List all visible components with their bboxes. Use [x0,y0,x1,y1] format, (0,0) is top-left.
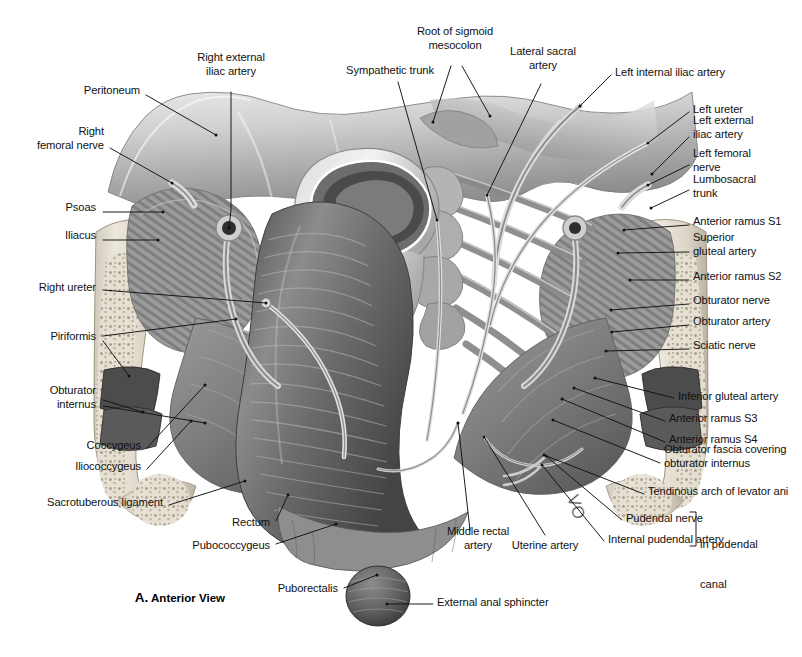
label-right-ureter-line1: Right ureter [0,281,96,294]
label-right-femoral-nerve-line2: femoral nerve [0,139,104,152]
label-layer: PeritoneumRight externaliliac arterySymp… [0,0,802,657]
label-sacrotuberous-ligament-line1: Sacrotuberous ligament [0,496,163,509]
label-inferior-gluteal-artery: Inferior gluteal artery [678,390,802,403]
label-right-femoral-nerve: Rightfemoral nerve [0,125,104,151]
label-left-external-iliac-artery-line2: iliac artery [693,128,802,141]
label-pubococcygeus-line1: Pubococcygeus [0,539,270,552]
label-inferior-gluteal-artery-line1: Inferior gluteal artery [678,390,802,403]
label-iliacus-line1: Iliacus [0,229,96,242]
label-obturator-fascia-line2: obturator internus [664,457,802,470]
figure-caption: A. Anterior View [117,570,225,624]
label-anterior-ramus-s3-line1: Anterior ramus S3 [669,412,802,425]
label-lumbosacral-trunk-line2: trunk [693,187,802,200]
label-superior-gluteal-artery-line1: Superior [693,231,802,244]
label-right-ureter: Right ureter [0,281,96,294]
label-iliococcygeus-line1: Iliococcygeus [0,460,141,473]
label-rectum: Rectum [0,516,270,529]
label-middle-rectal-artery-line1: Middle rectal [368,525,588,538]
label-psoas-line1: Psoas [0,201,96,214]
label-anterior-ramus-s3: Anterior ramus S3 [669,412,802,425]
label-sciatic-nerve: Sciatic nerve [693,339,802,352]
label-anterior-ramus-s1-line1: Anterior ramus S1 [693,215,802,228]
label-obturator-artery: Obturator artery [693,315,802,328]
label-iliacus: Iliacus [0,229,96,242]
label-anterior-ramus-s2-line1: Anterior ramus S2 [693,270,802,283]
label-obturator-artery-line1: Obturator artery [693,315,802,328]
label-peritoneum: Peritoneum [0,84,140,97]
label-piriformis-line1: Piriformis [0,330,96,343]
label-obturator-internus: Obturatorinternus [0,384,96,410]
label-obturator-fascia-line1: Obturator fascia covering [664,443,802,456]
label-obturator-fascia: Obturator fascia coveringobturator inter… [664,443,802,469]
label-superior-gluteal-artery-line2: gluteal artery [693,245,802,258]
label-left-external-iliac-artery-line1: Left external [693,114,802,127]
label-peritoneum-line1: Peritoneum [0,84,140,97]
label-lumbosacral-trunk: Lumbosacraltrunk [693,173,802,199]
label-sciatic-nerve-line1: Sciatic nerve [693,339,802,352]
pudendal-canal-note-line2: canal [700,578,758,591]
label-left-femoral-nerve: Left femoralnerve [693,147,802,173]
label-coccygeus-line1: Coccygeus [0,439,141,452]
label-tendinous-arch-of-levator-ani: Tendinous arch of levator ani [648,485,802,498]
pudendal-canal-note: in pudendal canal [700,512,758,618]
label-rectum-line1: Rectum [0,516,270,529]
label-iliococcygeus: Iliococcygeus [0,460,141,473]
label-uterine-artery-line1: Uterine artery [435,539,655,552]
label-uterine-artery: Uterine artery [435,539,655,552]
label-left-internal-iliac-artery-line1: Left internal iliac artery [615,66,802,79]
label-lateral-sacral-artery-line1: Lateral sacral [433,45,653,58]
label-left-internal-iliac-artery: Left internal iliac artery [615,66,802,79]
label-root-of-sigmoid-mesocolon-line1: Root of sigmoid [345,25,565,38]
label-coccygeus: Coccygeus [0,439,141,452]
label-anterior-ramus-s1: Anterior ramus S1 [693,215,802,228]
label-tendinous-arch-of-levator-ani-line1: Tendinous arch of levator ani [648,485,802,498]
label-obturator-internus-line2: internus [0,398,96,411]
label-left-external-iliac-artery: Left externaliliac artery [693,114,802,140]
label-pubococcygeus: Pubococcygeus [0,539,270,552]
label-sacrotuberous-ligament: Sacrotuberous ligament [0,496,163,509]
label-piriformis: Piriformis [0,330,96,343]
label-lumbosacral-trunk-line1: Lumbosacral [693,173,802,186]
caption-letter: A. [135,590,149,605]
pudendal-canal-note-line1: in pudendal [700,538,758,551]
caption-text: Anterior View [151,592,225,604]
anatomical-figure: VO [0,0,802,657]
label-right-femoral-nerve-line1: Right [0,125,104,138]
label-obturator-internus-line1: Obturator [0,384,96,397]
label-obturator-nerve-line1: Obturator nerve [693,294,802,307]
label-anterior-ramus-s2: Anterior ramus S2 [693,270,802,283]
label-superior-gluteal-artery: Superiorgluteal artery [693,231,802,257]
label-psoas: Psoas [0,201,96,214]
label-left-femoral-nerve-line2: nerve [693,161,802,174]
label-right-external-iliac-artery-line1: Right external [121,51,341,64]
label-left-femoral-nerve-line1: Left femoral [693,147,802,160]
label-obturator-nerve: Obturator nerve [693,294,802,307]
